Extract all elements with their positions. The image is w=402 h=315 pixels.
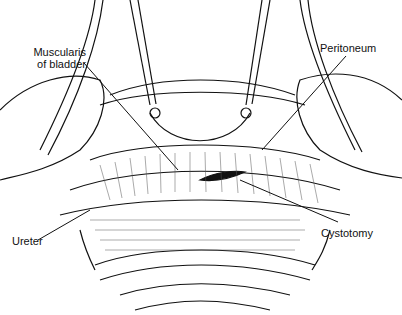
- label-cystotomy: Cystotomy: [321, 227, 373, 239]
- label-peritoneum: Peritoneum: [320, 42, 376, 54]
- label-muscularis-line1: Muscularis: [14, 46, 86, 58]
- label-ureter: Ureter: [12, 235, 43, 247]
- label-muscularis-line2: of bladder: [14, 58, 86, 70]
- surgical-illustration: Muscularis of bladder Peritoneum Ureter …: [0, 0, 402, 315]
- label-muscularis: Muscularis of bladder: [14, 46, 86, 70]
